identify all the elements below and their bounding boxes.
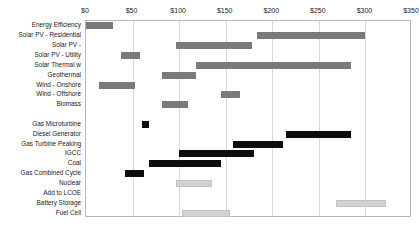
category-label: Fuel Cell	[56, 209, 81, 216]
range-bar	[196, 62, 352, 69]
range-bar	[121, 52, 140, 59]
category-label: Coal	[68, 159, 81, 166]
category-label: Biomass	[56, 100, 81, 107]
range-bar	[182, 210, 230, 217]
range-bar	[257, 32, 365, 39]
category-axis-labels: Energy EfficiencySolar PV - ResidentialS…	[0, 20, 83, 217]
x-tick-label: $50	[126, 7, 138, 14]
category-label: IGCC	[65, 149, 81, 156]
range-bar	[162, 72, 196, 79]
x-tick-label: $200	[263, 7, 279, 14]
range-bar	[221, 91, 240, 98]
category-label: Gas Turbine Peaking	[21, 140, 81, 147]
range-bar	[286, 131, 351, 138]
x-tick-label: $300	[357, 7, 373, 14]
category-label: Diesel Generator	[33, 130, 81, 137]
x-axis-top: $0$50$100$150$200$250$300$350	[0, 0, 419, 20]
range-bar	[176, 42, 251, 49]
range-bar	[86, 22, 113, 29]
range-bar	[162, 101, 188, 108]
x-tick-label: $0	[81, 7, 89, 14]
category-label: Wind - Offshore	[36, 90, 81, 97]
range-bar	[149, 160, 221, 167]
range-bar	[99, 82, 135, 89]
category-label: Geothermal	[48, 71, 81, 78]
range-bar	[142, 121, 149, 128]
range-bar	[125, 170, 144, 177]
x-tick-label: $250	[310, 7, 326, 14]
category-label: Gas Combined Cycle	[21, 169, 81, 176]
x-tick-label: $150	[217, 7, 233, 14]
plot-area	[85, 20, 411, 217]
range-bar	[336, 200, 386, 207]
category-label: Add to LCOE	[43, 189, 81, 196]
lcoe-range-chart: $0$50$100$150$200$250$300$350 Energy Eff…	[0, 0, 419, 227]
range-bar	[176, 180, 211, 187]
range-bar	[179, 150, 254, 157]
category-label: Solar PV -	[52, 41, 81, 48]
category-label: Solar PV - Utility	[34, 51, 81, 58]
category-label: Battery Storage	[37, 199, 81, 206]
range-bar	[233, 141, 283, 148]
category-label: Solar Thermal w	[35, 61, 81, 68]
bars-layer	[86, 21, 410, 216]
category-label: Nuclear	[59, 179, 81, 186]
category-label: Gas Microturbine	[32, 120, 81, 127]
category-label: Energy Efficiency	[32, 21, 81, 28]
x-tick-label: $100	[170, 7, 186, 14]
x-tick-label: $350	[403, 7, 419, 14]
category-label: Wind - Onshore	[36, 81, 81, 88]
category-label: Solar PV - Residential	[18, 31, 81, 38]
